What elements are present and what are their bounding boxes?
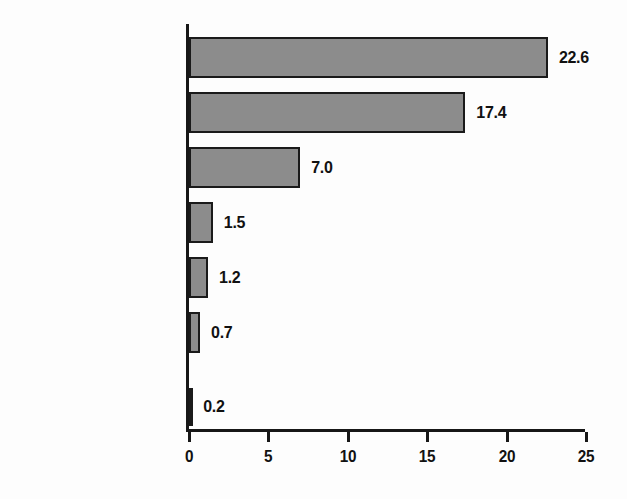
x-tick-label: 0 — [184, 447, 193, 467]
x-tick-mark — [506, 432, 509, 442]
x-tick-label-text: 25 — [578, 447, 594, 467]
bar-inhalants — [189, 312, 200, 353]
x-tick-label: 25 — [577, 447, 595, 467]
x-tick-label-text: 5 — [264, 447, 272, 467]
x-tick-label-text: 0 — [185, 447, 193, 467]
bar-cocaine — [189, 202, 213, 243]
x-tick-mark — [188, 432, 191, 442]
x-tick-label: 10 — [339, 447, 357, 467]
bar-marijuana — [189, 92, 465, 133]
x-tick-label: 15 — [418, 447, 436, 467]
x-tick-mark — [267, 432, 270, 442]
x-tick-label-text: 15 — [419, 447, 435, 467]
bar-value-label: 0.2 — [203, 398, 224, 416]
bar-value-label: 17.4 — [476, 104, 506, 122]
plot-area: 22.6Illicit Drugs17.4Marijuana7.0Psychot… — [0, 0, 627, 499]
bar-value-label: 7.0 — [311, 159, 332, 177]
x-tick-label: 20 — [497, 447, 515, 467]
bar-chart: 22.6Illicit Drugs17.4Marijuana7.0Psychot… — [0, 0, 627, 499]
bar-psychotherapeutics — [189, 147, 300, 188]
bar-hallucinogens — [189, 257, 208, 298]
x-tick-mark — [347, 432, 350, 442]
x-tick-label-text: 10 — [340, 447, 356, 467]
x-tick-label-text: 20 — [498, 447, 514, 467]
bar-illicit-drugs — [189, 37, 548, 78]
x-tick-mark — [585, 432, 588, 442]
x-tick-label: 5 — [264, 447, 273, 467]
x-axis-line — [186, 429, 585, 432]
bar-value-label: 22.6 — [559, 49, 589, 67]
bar-value-label: 1.5 — [224, 214, 245, 232]
bar-heroin — [189, 388, 193, 426]
bar-value-label: 0.7 — [211, 324, 232, 342]
x-tick-mark — [426, 432, 429, 442]
bar-value-label: 1.2 — [219, 269, 240, 287]
